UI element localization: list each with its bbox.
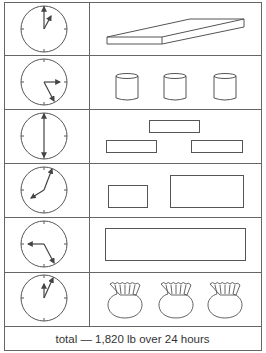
clock-icon [21,167,67,213]
bar-icon [107,121,243,153]
clock-icon [21,113,67,159]
clock-icon [21,275,67,321]
cylinder-icon [214,74,236,101]
rectangle-icon [109,176,244,208]
sack-icon [108,283,142,319]
clock-icon [21,6,67,52]
cylinder-icon [164,74,186,101]
sack-icon [208,283,242,319]
footer-total-label: total — 1,820 lb over 24 hours [4,327,261,350]
slab-icon [107,19,244,44]
long-rectangle-icon [106,229,246,261]
table-grid [5,3,262,351]
sack-icon [159,283,193,319]
cylinder-icon [116,74,138,101]
clock-icon [21,59,67,105]
clock-icon [21,221,67,267]
diagram-table [0,0,266,353]
